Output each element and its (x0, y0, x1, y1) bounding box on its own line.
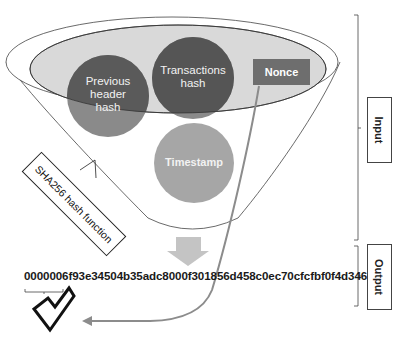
arrowhead-icon (82, 316, 92, 326)
label-line: header (78, 88, 138, 101)
output-hash: 0000006f93e34504b35adc8000f301856d458c0e… (24, 269, 367, 282)
nonce-label: Nonce (253, 66, 310, 79)
output-label: Output (374, 259, 386, 295)
input-bracket (354, 15, 361, 240)
timestamp-label: Timestamp (154, 156, 234, 169)
label-line: hash (153, 77, 233, 90)
down-arrow-icon (167, 237, 209, 266)
label-line: Transactions (153, 64, 233, 77)
previous-header-hash-label: Previous header hash (78, 75, 138, 115)
checkmark-icon (34, 288, 74, 330)
leading-zeros-bracket (25, 289, 63, 294)
input-label: Input (374, 117, 386, 144)
label-line: hash (78, 101, 138, 114)
label-line: Previous (78, 75, 138, 88)
transactions-hash-label: Transactions hash (153, 64, 233, 90)
input-label-box: Input (367, 97, 392, 163)
sha-pointer-icon (80, 160, 96, 178)
output-label-box: Output (367, 244, 392, 310)
